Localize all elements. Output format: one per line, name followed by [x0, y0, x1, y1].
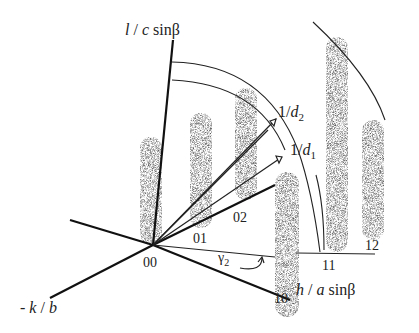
rod-11 — [326, 37, 348, 252]
rod-label-02: 02 — [233, 210, 247, 225]
arc-inner — [172, 80, 285, 150]
row-1-baseline — [296, 253, 375, 254]
diagonal-line — [153, 185, 275, 245]
gamma-arc — [240, 258, 262, 269]
rod-label-10: 10 — [274, 291, 288, 306]
rod-label-01: 01 — [193, 231, 207, 246]
vector-d1-label: 1/d1 — [290, 141, 316, 161]
arrow-d1 — [276, 156, 282, 163]
arc-right — [313, 22, 385, 120]
h-axis-label: h / a sinβ — [296, 281, 355, 299]
vector-d2-label: 1/d2 — [278, 103, 304, 123]
l-axis-label: l / c sinβ — [125, 21, 180, 39]
k-axis-line — [50, 245, 153, 298]
reciprocal-lattice-diagram: l / c sinβ h / a sinβ - k / b 1/d2 1/d1 … — [0, 0, 419, 333]
rod-01 — [190, 113, 212, 228]
k-axis-label: - k / b — [20, 299, 57, 316]
rod-12 — [362, 120, 384, 240]
gamma-baseline — [153, 245, 275, 257]
rod-label-11: 11 — [322, 258, 335, 273]
rod-label-12: 12 — [365, 238, 379, 253]
arc-small — [316, 175, 324, 250]
rod-label-00: 00 — [143, 255, 157, 270]
lattice-rods — [140, 37, 384, 317]
vector-d1 — [153, 157, 282, 245]
